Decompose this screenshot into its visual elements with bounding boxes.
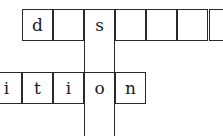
crossword-cell[interactable] (177, 9, 208, 41)
crossword-cell[interactable]: i (0, 72, 22, 104)
crossword-cell[interactable]: d (22, 9, 53, 41)
crossword-cell[interactable]: i (53, 72, 84, 104)
crossword-cell[interactable] (53, 9, 84, 41)
crossword-cell[interactable] (84, 103, 115, 136)
crossword-cell[interactable]: s (84, 9, 115, 41)
crossword-cell[interactable] (146, 9, 177, 41)
crossword-cell[interactable] (209, 9, 223, 41)
crossword-cell[interactable]: n (115, 72, 146, 104)
crossword-cell[interactable]: t (22, 72, 53, 104)
crossword-cell[interactable] (84, 40, 115, 74)
crossword-cell[interactable] (115, 9, 146, 41)
crossword-cell[interactable]: o (84, 72, 115, 104)
